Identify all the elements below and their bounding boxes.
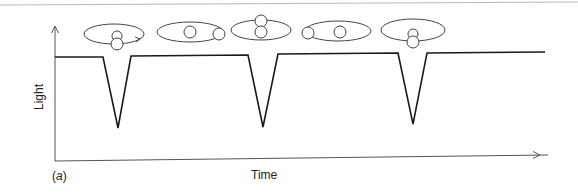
- axes: [52, 26, 549, 161]
- orbit-phase-3: [231, 15, 291, 40]
- star-circle-icon: [255, 26, 267, 38]
- top-rule: [0, 2, 578, 5]
- star-circle-icon: [255, 15, 267, 27]
- star-circle-icon: [302, 27, 314, 39]
- y-axis-label: Light: [32, 84, 46, 110]
- orbit-phase-1: [84, 24, 144, 50]
- star-circle-icon: [213, 28, 225, 40]
- x-axis-label: Time: [251, 168, 277, 182]
- orbit-phase-4: [302, 21, 371, 41]
- light-curve: [55, 52, 545, 128]
- orbit-phase-5: [381, 19, 445, 48]
- panel-letter: a: [56, 169, 63, 183]
- orbit-phase-2: [157, 22, 225, 42]
- star-circle-icon: [184, 26, 196, 38]
- star-circle-icon: [407, 36, 419, 48]
- eclipsing-binary-figure: [0, 0, 578, 195]
- panel-label: (a): [52, 169, 67, 183]
- star-circle-icon: [334, 26, 346, 38]
- orbit-diagrams: [84, 15, 445, 50]
- x-axis: [55, 155, 548, 161]
- star-circle-icon: [111, 38, 123, 50]
